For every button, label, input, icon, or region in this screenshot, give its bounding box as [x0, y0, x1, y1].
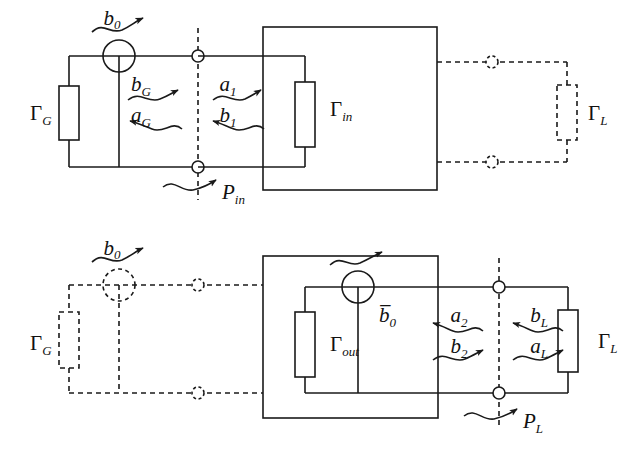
label-a2: a2: [451, 303, 469, 330]
bottom-pl-arrow-group: [464, 409, 517, 419]
bottom-port-node-upper: [493, 281, 505, 293]
top-box-connection-wires: [198, 56, 305, 167]
diagram-canvas: b0 ΓG Γin ΓL bG aG a1 b1 Pin: [0, 0, 628, 469]
label-gamma-out: Γout: [330, 332, 359, 359]
label-gamma-g-bottom: ΓG: [30, 331, 52, 358]
label-a1: a1: [220, 72, 237, 99]
pin-wavy-arrow: [163, 180, 216, 190]
bottom-left-generator-network: [59, 269, 263, 399]
bbar0-wavy-arrow: [330, 252, 382, 265]
label-b1: b1: [220, 103, 237, 130]
label-p-in: Pin: [221, 180, 245, 207]
bottom-port-node-lower: [493, 387, 505, 399]
label-bbar0: b̅0: [379, 303, 397, 330]
label-gamma-in: Γin: [330, 97, 352, 124]
bottom-reference-plane: [493, 258, 505, 428]
top-left-generator-network: [59, 40, 198, 167]
bottom-diagram-labels: b0 ΓG Γout b̅0 ΓL a2 b2 bL aL PL: [30, 236, 617, 436]
gamma-l-resistor-bottom: [558, 310, 578, 372]
label-aL: aL: [530, 334, 548, 361]
label-gamma-l-top: ΓL: [588, 101, 607, 128]
top-right-node-lower: [486, 156, 498, 168]
bottom-twoport-box: [263, 252, 438, 418]
bottom-left-node-upper: [192, 279, 204, 291]
top-diagram: b0 ΓG Γin ΓL bG aG a1 b1 Pin: [30, 6, 607, 207]
label-p-l: PL: [522, 409, 543, 436]
top-right-node-upper: [486, 56, 498, 68]
top-diagram-labels: b0 ΓG Γin ΓL bG aG a1 b1 Pin: [30, 6, 607, 207]
label-b0-bottom: b0: [104, 236, 122, 262]
label-bG: bG: [131, 72, 152, 99]
label-aG: aG: [131, 103, 152, 130]
top-reference-plane: [192, 28, 204, 200]
bottom-left-node-lower: [192, 387, 204, 399]
label-gamma-g-top: ΓG: [30, 101, 52, 128]
label-bL: bL: [530, 303, 548, 330]
circuit-diagram-figure: b0 ΓG Γin ΓL bG aG a1 b1 Pin: [0, 0, 628, 469]
label-b2: b2: [451, 334, 469, 361]
top-right-load-network: [437, 56, 577, 168]
label-gamma-l-bottom: ΓL: [598, 329, 617, 356]
bottom-diagram: b0 ΓG Γout b̅0 ΓL a2 b2 bL aL PL: [30, 236, 617, 436]
top-pin-arrow-group: [163, 180, 216, 190]
gamma-in-resistor: [295, 82, 315, 147]
gamma-l-resistor-top: [557, 85, 577, 140]
gamma-g-resistor-bottom: [59, 312, 79, 368]
gamma-g-resistor-top: [59, 86, 79, 140]
pl-wavy-arrow: [464, 409, 517, 419]
label-b0-top: b0: [104, 6, 122, 32]
gamma-out-resistor: [295, 312, 315, 377]
